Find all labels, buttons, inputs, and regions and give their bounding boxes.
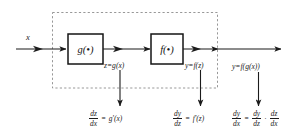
- g-block-label: g(•): [78, 44, 94, 55]
- dy-dx-term2-numerator: dz: [270, 110, 279, 118]
- derivative-dz-dx: dz dx = g′(x): [88, 110, 122, 128]
- f-block-label: f(•): [160, 44, 174, 55]
- dy-dz-fraction: dy dz: [172, 110, 183, 128]
- dy-dx-term1-denominator: dz: [252, 118, 261, 127]
- dy-dz-equals: =: [183, 114, 192, 123]
- block2-output-label: y=f(z): [185, 62, 204, 70]
- dy-dz-numerator: dy: [173, 110, 182, 118]
- dy-dx-term2-fraction: dz dx: [269, 110, 280, 128]
- dy-dz-rhs: f′(z): [192, 114, 204, 123]
- dy-dx-term2-denominator: dx: [270, 118, 279, 127]
- derivative-dy-dz: dy dz = f′(z): [172, 110, 204, 128]
- dy-dx-numerator: dy: [232, 110, 241, 118]
- dy-dx-denominator: dx: [232, 118, 241, 127]
- dz-dx-denominator: dx: [89, 118, 98, 127]
- intermediate-signal-label: z=g(x): [104, 62, 124, 70]
- dy-dz-denominator: dz: [173, 118, 182, 127]
- dz-dx-fraction: dz dx: [88, 110, 99, 128]
- dy-dx-term1-fraction: dy dz: [251, 110, 262, 128]
- dy-dx-fraction: dy dx: [231, 110, 242, 128]
- dz-dx-rhs: g′(x): [108, 114, 122, 123]
- dy-dx-equals: =: [242, 114, 251, 123]
- input-signal-label: x: [26, 33, 30, 42]
- derivative-dy-dx-chain: dy dx = dy dz · dz dx: [231, 110, 280, 128]
- dy-dx-term1-numerator: dy: [252, 110, 261, 118]
- diagram-canvas: g(•) f(•) x z=g(x) y=f(z) y=f(g(x)) dz d…: [0, 0, 300, 135]
- g-block-label-wrap: g(•): [68, 34, 103, 64]
- f-block-label-wrap: f(•): [151, 34, 183, 64]
- final-output-label: y=f(g(x)): [232, 63, 260, 71]
- dz-dx-equals: =: [99, 114, 108, 123]
- dz-dx-numerator: dz: [89, 110, 98, 118]
